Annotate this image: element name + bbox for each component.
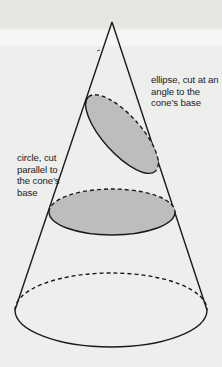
- ellipse-label: ellipse, cut at an angle to the cone’s b…: [151, 74, 219, 109]
- ellipse-label-line-3: cone’s base: [151, 97, 219, 109]
- circle-section: [49, 189, 175, 235]
- circle-label: circle, cut parallel to the cone’s base: [17, 152, 60, 198]
- circle-label-line-4: base: [17, 187, 60, 199]
- ellipse-label-line-2: angle to the: [151, 86, 219, 98]
- circle-label-line-3: the cone’s: [17, 175, 60, 187]
- circle-label-line-2: parallel to: [17, 164, 60, 176]
- circle-label-line-1: circle, cut: [17, 152, 60, 164]
- cone-right-side: [112, 22, 207, 310]
- ellipse-label-line-1: ellipse, cut at an: [151, 74, 219, 86]
- base-front-arc: [15, 310, 207, 347]
- base-back-arc-dashed: [15, 273, 207, 310]
- cone-base: [15, 273, 207, 347]
- stray-mark: [97, 50, 100, 51]
